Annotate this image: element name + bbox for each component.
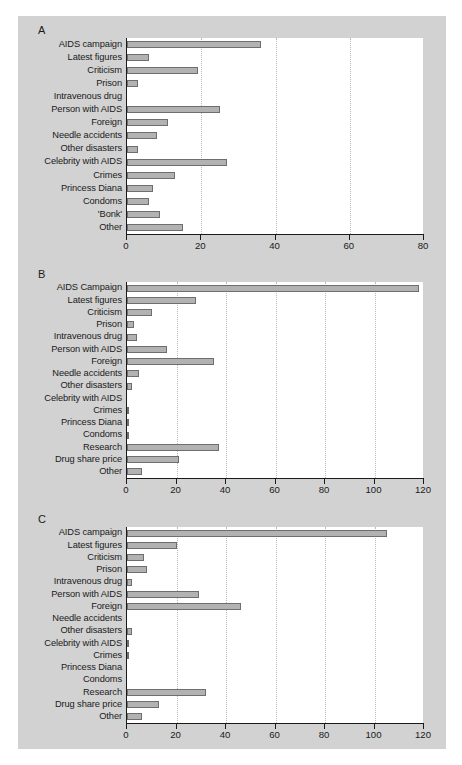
- x-tick-mark: [176, 479, 177, 484]
- category-label: Foreign: [91, 118, 122, 127]
- category-label-row: Other disasters: [18, 143, 122, 156]
- category-label-row: Research: [18, 441, 122, 453]
- bar-row: [127, 156, 423, 169]
- category-label-row: Needle accidents: [18, 368, 122, 380]
- category-label: Princess Diana: [61, 184, 122, 193]
- bar: [127, 224, 183, 231]
- x-tick-label: 40: [220, 484, 231, 495]
- bar-row: [127, 564, 423, 576]
- category-label-row: Needle accidents: [18, 129, 122, 142]
- category-label: Latest figures: [68, 296, 122, 305]
- bar: [127, 701, 159, 708]
- x-tick-label: 0: [123, 484, 128, 495]
- category-label: Person with AIDS: [51, 590, 122, 599]
- bar: [127, 444, 219, 451]
- category-label: Needle accidents: [52, 369, 122, 378]
- bar-row: [127, 699, 423, 711]
- category-label-row: Other disasters: [18, 625, 122, 637]
- category-label-row: Other: [18, 711, 122, 723]
- x-tick-label: 100: [365, 729, 381, 740]
- category-label: AIDS Campaign: [57, 283, 122, 292]
- bars-b: [127, 282, 423, 478]
- bar-row: [127, 405, 423, 417]
- bar-row: [127, 90, 423, 103]
- bar-row: [127, 368, 423, 380]
- bar-row: [127, 637, 423, 649]
- category-label-row: AIDS Campaign: [18, 282, 122, 294]
- category-label-row: Research: [18, 686, 122, 698]
- bar-row: [127, 588, 423, 600]
- bar-row: [127, 552, 423, 564]
- category-label-row: Other disasters: [18, 380, 122, 392]
- bar: [127, 198, 149, 205]
- category-label-row: Condoms: [18, 195, 122, 208]
- figure-panel-container: A AIDS campaignLatest figuresCriticismPr…: [18, 16, 446, 749]
- category-label-row: Intravenous drug: [18, 331, 122, 343]
- category-label: Drug share price: [55, 455, 122, 464]
- bar-row: [127, 392, 423, 404]
- bar: [127, 80, 138, 87]
- bar-row: [127, 441, 423, 453]
- plot-area-b: [126, 282, 423, 478]
- x-tick-mark: [176, 724, 177, 729]
- bar: [127, 432, 129, 439]
- category-label-row: Condoms: [18, 674, 122, 686]
- bar-row: [127, 331, 423, 343]
- category-label-row: Latest figures: [18, 539, 122, 551]
- category-label: Prison: [96, 565, 122, 574]
- bar-row: [127, 129, 423, 142]
- category-label-row: Latest figures: [18, 294, 122, 306]
- bar-row: [127, 51, 423, 64]
- category-label-row: Crimes: [18, 169, 122, 182]
- category-label: Prison: [96, 79, 122, 88]
- bar-row: [127, 625, 423, 637]
- bars-c: [127, 527, 423, 723]
- bar: [127, 185, 153, 192]
- bar: [127, 346, 167, 353]
- bar-row: [127, 466, 423, 478]
- x-tick-mark: [200, 235, 201, 240]
- category-label: Criticism: [87, 308, 122, 317]
- category-label: Other: [99, 467, 122, 476]
- bar: [127, 628, 132, 635]
- category-label: 'Bonk': [98, 210, 122, 219]
- category-label: Other disasters: [60, 626, 122, 635]
- x-tick-label: 80: [319, 484, 330, 495]
- bar: [127, 334, 137, 341]
- x-tick-label: 20: [195, 240, 206, 251]
- category-label-row: AIDS campaign: [18, 527, 122, 539]
- bar: [127, 652, 129, 659]
- category-label-row: Drug share price: [18, 454, 122, 466]
- panel-letter-c: C: [38, 513, 46, 525]
- x-tick-label: 60: [343, 240, 354, 251]
- category-label: Research: [83, 443, 122, 452]
- category-labels-b: AIDS CampaignLatest figuresCriticismPris…: [18, 282, 122, 478]
- category-label: Intravenous drug: [54, 332, 122, 341]
- x-tick-mark: [225, 479, 226, 484]
- category-label-row: Prison: [18, 564, 122, 576]
- category-label-row: Other: [18, 466, 122, 478]
- bar-row: [127, 613, 423, 625]
- bar-row: [127, 307, 423, 319]
- category-label-row: Criticism: [18, 64, 122, 77]
- bar: [127, 579, 132, 586]
- category-label: Latest figures: [68, 53, 122, 62]
- bar: [127, 146, 138, 153]
- category-label: Condoms: [83, 197, 122, 206]
- category-label-row: Criticism: [18, 552, 122, 564]
- x-axis-ticks-c: 020406080100120: [126, 729, 424, 747]
- category-label: Crimes: [93, 406, 122, 415]
- category-label: Needle accidents: [52, 614, 122, 623]
- x-tick-mark: [126, 479, 127, 484]
- category-label: Crimes: [93, 171, 122, 180]
- bar: [127, 172, 175, 179]
- bar-row: [127, 169, 423, 182]
- bar-row: [127, 38, 423, 51]
- category-label-row: Condoms: [18, 429, 122, 441]
- category-label: Criticism: [87, 66, 122, 75]
- x-tick-mark: [324, 479, 325, 484]
- bar: [127, 321, 134, 328]
- x-tick-label: 60: [269, 729, 280, 740]
- plot-area-c: [126, 527, 423, 723]
- category-label: Condoms: [83, 675, 122, 684]
